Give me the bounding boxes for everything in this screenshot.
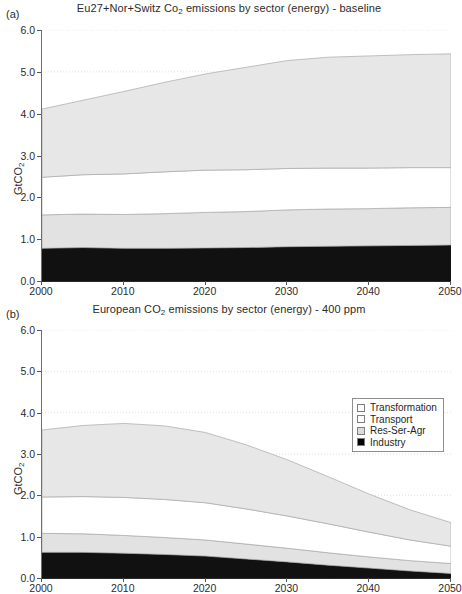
x-tick-label: 2030 (275, 582, 298, 594)
legend-swatch-icon (357, 415, 365, 423)
area-band-transformation (42, 54, 451, 177)
panel-a-plot-area (41, 30, 451, 282)
panel-b-title-post: emissions by sector (energy) - 400 ppm (165, 303, 365, 315)
legend-swatch-icon (357, 427, 365, 435)
y-tick-label: 3.0 (1, 448, 35, 460)
x-tick-label: 2040 (357, 285, 380, 297)
x-tick-label: 2000 (29, 582, 52, 594)
x-tick-label: 2040 (357, 582, 380, 594)
x-tick-mark (368, 281, 369, 285)
panel-a-y-axis-label: GtCO2 (12, 162, 26, 195)
y-tick-label: 2.0 (1, 489, 35, 501)
y-tick-label: 4.0 (1, 108, 35, 120)
y-tick-label: 6.0 (1, 324, 35, 336)
y-tick-label: 6.0 (1, 24, 35, 36)
panel-b-title: European CO2 emissions by sector (energy… (0, 303, 458, 317)
y-tick-mark (37, 114, 41, 115)
panel-b-title-pre: European CO (92, 303, 160, 315)
legend-label: Res-Ser-Agr (370, 425, 426, 436)
panel-b-plot-area (41, 330, 451, 579)
y-tick-mark (37, 371, 41, 372)
y-tick-label: 4.0 (1, 407, 35, 419)
y-tick-label: 1.0 (1, 233, 35, 245)
panel-a-title-pre: Eu27+Nor+Switz Co (77, 2, 178, 14)
x-tick-label: 2010 (111, 285, 134, 297)
x-tick-label: 2010 (111, 582, 134, 594)
legend-swatch-icon (357, 404, 365, 412)
x-tick-mark (450, 578, 451, 582)
x-tick-mark (205, 578, 206, 582)
legend-item-transport: Transport (357, 414, 437, 426)
x-tick-mark (205, 281, 206, 285)
y-tick-mark (37, 537, 41, 538)
legend-label: Industry (370, 437, 406, 448)
x-tick-label: 2050 (438, 582, 461, 594)
area-band-industry (42, 245, 451, 281)
panel-a-title: Eu27+Nor+Switz Co2 emissions by sector (… (0, 2, 458, 16)
legend-item-res-ser-agr: Res-Ser-Agr (357, 425, 437, 437)
area-band-transport (42, 168, 451, 215)
legend-swatch-icon (357, 438, 365, 446)
x-tick-label: 2020 (193, 285, 216, 297)
x-tick-mark (123, 578, 124, 582)
y-tick-label: 1.0 (1, 531, 35, 543)
panel-a-title-post: emissions by sector (energy) - baseline (183, 2, 381, 14)
y-tick-label: 3.0 (1, 150, 35, 162)
x-tick-label: 2030 (275, 285, 298, 297)
y-tick-label: 5.0 (1, 66, 35, 78)
y-tick-mark (37, 413, 41, 414)
legend-label: Transformation (370, 402, 437, 413)
y-tick-mark (37, 197, 41, 198)
y-tick-label: 5.0 (1, 365, 35, 377)
panel-a-series-bands (42, 54, 451, 281)
y-tick-mark (37, 239, 41, 240)
x-tick-mark (450, 281, 451, 285)
x-tick-label: 2050 (438, 285, 461, 297)
panel-a-areas (42, 30, 451, 281)
y-tick-mark (37, 454, 41, 455)
x-tick-mark (41, 578, 42, 582)
x-tick-mark (286, 281, 287, 285)
y-tick-label: 2.0 (1, 191, 35, 203)
panel-b-y-axis-label-sub: 2 (17, 462, 26, 466)
x-tick-mark (286, 578, 287, 582)
y-tick-mark (37, 30, 41, 31)
legend: TransformationTransportRes-Ser-AgrIndust… (352, 398, 444, 452)
x-tick-label: 2000 (29, 285, 52, 297)
panel-b-areas (42, 330, 451, 578)
legend-item-industry: Industry (357, 437, 437, 449)
y-tick-mark (37, 495, 41, 496)
legend-item-transformation: Transformation (357, 402, 437, 414)
panel-b: (b) European CO2 emissions by sector (en… (0, 300, 458, 584)
legend-label: Transport (370, 414, 412, 425)
x-tick-mark (123, 281, 124, 285)
y-tick-mark (37, 156, 41, 157)
x-tick-mark (368, 578, 369, 582)
x-tick-mark (41, 281, 42, 285)
panel-a: (a) Eu27+Nor+Switz Co2 emissions by sect… (0, 0, 458, 300)
x-tick-label: 2020 (193, 582, 216, 594)
y-tick-mark (37, 72, 41, 73)
panel-a-y-axis-label-sub: 2 (17, 162, 26, 166)
y-tick-mark (37, 330, 41, 331)
